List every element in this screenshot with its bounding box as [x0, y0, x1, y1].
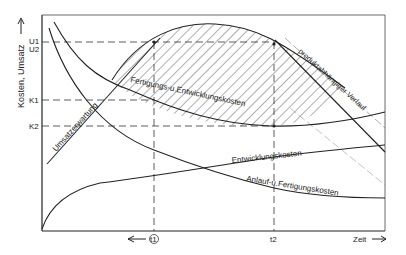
x-axis-label: Zeit	[353, 235, 367, 244]
point-t2-k2	[272, 124, 275, 127]
tick-k2: K2	[29, 122, 39, 131]
y-axis-arrow-icon	[18, 18, 24, 34]
label-umsatzerwartung: Umsatzerwartung	[51, 101, 100, 154]
tick-t2: t2	[270, 235, 277, 244]
cost-revenue-diagram: Kosten, Umsatz U1 U2 K1 K2 t1 t2 Zeit Um…	[0, 0, 406, 255]
tick-k1: K1	[29, 96, 39, 105]
point-t2-u2	[272, 42, 275, 45]
tick-u2: U2	[29, 45, 40, 54]
point-t1-u1	[152, 40, 155, 43]
label-entwicklungskosten: Entwicklungskosten	[231, 149, 302, 165]
x-axis-arrow-icon	[372, 236, 386, 242]
left-arrow-icon	[128, 236, 146, 242]
y-axis-label: Kosten, Umsatz	[16, 44, 26, 108]
label-anlauf-fertigung: Anlauf-u.Fertigungskosten	[246, 174, 340, 197]
